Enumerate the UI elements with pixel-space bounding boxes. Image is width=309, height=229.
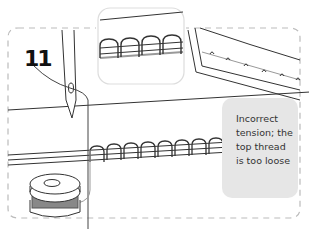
needle-icon bbox=[62, 30, 76, 118]
stitch-loops bbox=[90, 138, 223, 162]
sewing-tension-diagram: 11 Incorrect tension; the top thread is … bbox=[0, 0, 309, 229]
fabric-corner-seam bbox=[188, 28, 300, 100]
caption-text: Incorrect tension; the top thread is too… bbox=[236, 112, 296, 168]
bobbin-icon bbox=[30, 174, 80, 217]
step-number: 11 bbox=[24, 46, 51, 71]
zoom-inset bbox=[98, 8, 184, 84]
